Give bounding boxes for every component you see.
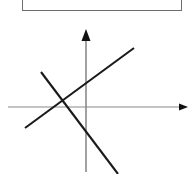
coordinate-plane bbox=[0, 0, 191, 174]
rising-line bbox=[25, 48, 134, 128]
y-axis-arrow-icon bbox=[82, 29, 91, 41]
x-axis-group bbox=[8, 104, 188, 111]
graph-figure bbox=[0, 0, 191, 174]
x-axis-arrow-icon bbox=[179, 104, 188, 111]
y-axis-group bbox=[82, 29, 91, 172]
